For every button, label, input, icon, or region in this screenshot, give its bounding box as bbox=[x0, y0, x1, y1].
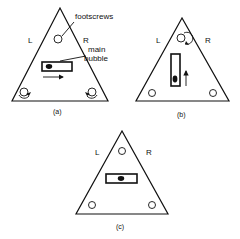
main-bubble-label-2: bubble bbox=[84, 54, 109, 63]
right-label: R bbox=[205, 36, 211, 45]
bubble bbox=[118, 176, 124, 181]
footscrew-bottom-right bbox=[149, 202, 156, 209]
bubble bbox=[46, 64, 52, 69]
tribrach-triangle bbox=[76, 131, 168, 214]
right-label: R bbox=[146, 148, 152, 157]
footscrew-top bbox=[177, 34, 185, 42]
footscrew-top bbox=[54, 35, 62, 43]
panel-b: L R (b) bbox=[136, 18, 229, 119]
right-label: R bbox=[83, 36, 89, 45]
caption-b: (b) bbox=[177, 111, 186, 119]
footscrew-bottom-right bbox=[88, 88, 96, 96]
rotation-arrow-icon bbox=[87, 95, 97, 98]
panel-c: L R (c) bbox=[76, 131, 168, 231]
caption-c: (c) bbox=[116, 223, 124, 231]
footscrew-bottom-left bbox=[89, 202, 96, 209]
footscrew-bottom-left bbox=[20, 88, 28, 96]
leveling-diagram: L R footscrews main bubble (a) L R (b) L… bbox=[0, 0, 240, 239]
tribrach-triangle bbox=[136, 18, 229, 101]
bubble bbox=[173, 76, 178, 83]
footscrew-bottom-left bbox=[149, 90, 156, 97]
left-label: L bbox=[95, 148, 100, 157]
footscrew-top bbox=[119, 148, 126, 155]
footscrews-label: footscrews bbox=[75, 12, 113, 21]
left-label: L bbox=[156, 36, 161, 45]
left-label: L bbox=[28, 36, 33, 45]
callout-line-bubble bbox=[60, 56, 86, 61]
panel-a: L R footscrews main bubble (a) bbox=[12, 8, 113, 116]
rotation-arrow-icon bbox=[19, 95, 29, 98]
footscrew-bottom-right bbox=[210, 90, 217, 97]
main-bubble-label-1: main bbox=[88, 45, 105, 54]
caption-a: (a) bbox=[53, 108, 62, 116]
